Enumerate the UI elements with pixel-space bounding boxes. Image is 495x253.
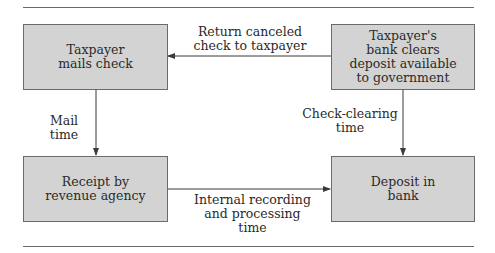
node-bank-clears: Taxpayer's bank clears deposit available…	[331, 24, 475, 90]
node-label: Taxpayer mails check	[58, 43, 133, 71]
node-taxpayer-mails-check: Taxpayer mails check	[23, 24, 168, 90]
node-label: Receipt by revenue agency	[45, 175, 145, 203]
edge-label-return-canceled: Return canceled check to taxpayer	[190, 25, 310, 53]
node-deposit-in-bank: Deposit in bank	[331, 156, 475, 222]
edge-label-check-clearing: Check-clearing time	[300, 107, 400, 135]
node-label: Taxpayer's bank clears deposit available…	[349, 29, 456, 85]
node-receipt-by-agency: Receipt by revenue agency	[23, 156, 168, 222]
node-label: Deposit in bank	[371, 175, 435, 203]
edge-label-mail-time: Mail time	[34, 114, 94, 142]
edge-label-internal-recording: Internal recording and processing time	[190, 193, 315, 235]
